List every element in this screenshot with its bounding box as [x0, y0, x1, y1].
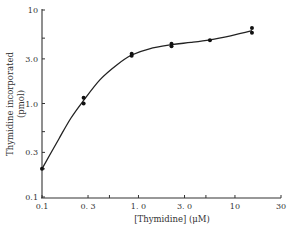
data-point — [170, 44, 174, 48]
data-point — [250, 26, 254, 30]
x-axis-title: [Thymidine] (μM) — [134, 214, 210, 224]
data-point — [130, 54, 134, 58]
data-point — [40, 167, 44, 171]
y-axis-title: Thymidine incorporated — [5, 52, 15, 156]
thymidine-chart: 0.10.31.03.0100.10. 31. 03. 01030 [Thymi… — [0, 0, 291, 233]
data-point — [82, 96, 86, 100]
y-tick-label: 0.3 — [25, 148, 38, 157]
x-tick-label: 10 — [230, 202, 240, 211]
x-tick-label: 0. 3 — [80, 202, 95, 211]
y-tick-label: 10 — [28, 6, 38, 15]
fit-curve-path — [42, 31, 252, 169]
x-tick-label: 1. 0 — [131, 202, 146, 211]
axes — [41, 9, 281, 198]
y-tick-label: 0.1 — [25, 193, 38, 202]
fit-curve — [42, 31, 252, 169]
y-tick-label: 3.0 — [25, 55, 38, 64]
x-tick-label: 0.1 — [36, 202, 49, 211]
x-tick-label: 3. 0 — [177, 202, 192, 211]
data-point — [208, 38, 212, 42]
tick-labels: 0.10.31.03.0100.10. 31. 03. 01030 — [25, 6, 286, 211]
data-point — [82, 102, 86, 106]
data-points — [40, 26, 254, 171]
x-tick-label: 30 — [276, 202, 286, 211]
data-point — [250, 31, 254, 35]
y-axis-unit: (pmol) — [16, 90, 26, 118]
y-tick-label: 1.0 — [25, 100, 38, 109]
